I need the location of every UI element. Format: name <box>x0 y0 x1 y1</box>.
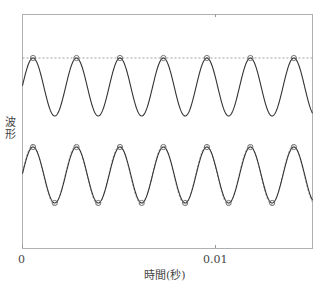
lower-waveform-line <box>23 147 313 203</box>
x-tick-label-0: 0 <box>18 253 25 266</box>
series-layer <box>23 55 313 205</box>
chart-canvas <box>0 0 323 286</box>
upper-waveform-line <box>23 58 313 116</box>
plot-frame <box>23 15 313 249</box>
y-axis-label: 波形 <box>1 116 17 140</box>
x-tick-label-001: 0.01 <box>203 253 228 266</box>
x-axis-label: 時間(秒) <box>144 266 186 282</box>
